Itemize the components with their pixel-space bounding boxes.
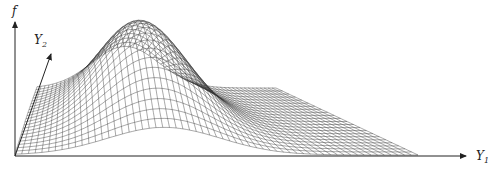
mesh-line	[276, 88, 418, 155]
mesh-line	[89, 60, 103, 139]
mesh-line	[268, 88, 405, 155]
mesh-line	[15, 87, 37, 155]
mesh-line	[105, 36, 130, 132]
surface-mesh	[15, 20, 418, 155]
mesh-line	[34, 34, 295, 98]
f-axis-label: f	[11, 4, 19, 18]
mesh-line	[33, 29, 302, 100]
mesh-line	[256, 88, 384, 155]
mesh-line	[109, 31, 136, 131]
y1-axis-label: Y1	[476, 149, 489, 165]
mesh-line	[133, 22, 177, 128]
mesh-line	[42, 84, 53, 152]
y2-axis-label: Y2	[34, 33, 47, 49]
mesh-line	[22, 86, 41, 154]
mesh-line	[28, 21, 334, 115]
mesh-line	[272, 88, 411, 155]
surface-plot: f Y2 Y1	[0, 0, 502, 171]
mesh-line	[27, 24, 341, 119]
mesh-line	[24, 40, 360, 128]
mesh-line	[35, 38, 289, 94]
